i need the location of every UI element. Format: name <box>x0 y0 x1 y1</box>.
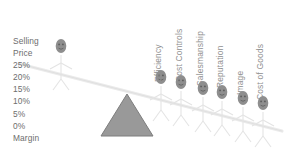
selling-price-label-line2: Price <box>13 47 59 59</box>
factor-label-image: Image <box>235 71 245 95</box>
selling-price-label-line1: Selling <box>13 35 59 47</box>
figure-salesmanship <box>192 81 214 132</box>
scale-tick-10: 10% <box>13 95 59 107</box>
seesaw-diagram-canvas: Selling Price 25% 20% 15% 10% 5% 0% Marg… <box>0 0 286 153</box>
margin-label: Margin <box>13 132 59 144</box>
scale-tick-15: 15% <box>13 83 59 95</box>
factor-label-cost-controls: Cost Controls <box>174 29 184 82</box>
figure-cost-controls <box>170 75 192 126</box>
fulcrum-triangle <box>101 94 153 136</box>
margin-scale-labels: Selling Price 25% 20% 15% 10% 5% 0% Marg… <box>13 35 59 144</box>
figure-image <box>232 91 254 142</box>
figure-reputation <box>211 85 233 136</box>
scale-tick-5: 5% <box>13 108 59 120</box>
factor-label-salesmanship: Salesmanship <box>195 31 205 86</box>
scale-tick-0: 0% <box>13 120 59 132</box>
scale-tick-25: 25% <box>13 59 59 71</box>
factor-label-efficiency: Efficiency <box>153 44 163 82</box>
scale-tick-20: 20% <box>13 71 59 83</box>
figure-cost-of-goods <box>252 96 274 147</box>
factor-label-cost-of-goods: Cost of Goods <box>255 44 265 100</box>
factor-label-reputation: Reputation <box>215 45 225 88</box>
